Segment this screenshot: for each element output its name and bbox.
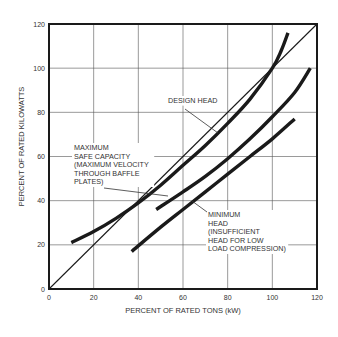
y-tick-label: 100 — [33, 65, 45, 72]
x-tick-label: 80 — [224, 294, 232, 301]
y-tick-label: 20 — [37, 241, 45, 248]
annotation-text: LOAD COMPRESSION) — [208, 244, 286, 253]
annotations: DESIGN HEADMAXIMUMSAFE CAPACITY(MAXIMUM … — [72, 96, 288, 254]
y-tick-label: 80 — [37, 109, 45, 116]
x-tick-label: 100 — [266, 294, 278, 301]
x-tick-label: 0 — [47, 294, 51, 301]
chart: 020406080100120020406080100120 DESIGN HE… — [0, 0, 338, 337]
y-axis-label: PERCENT OF RATED KILOWATTS — [17, 87, 26, 207]
leader-line — [192, 201, 207, 212]
x-tick-label: 120 — [311, 294, 323, 301]
series-maximum-safe-capacity — [156, 68, 310, 209]
y-tick-label: 60 — [37, 153, 45, 160]
x-tick-label: 40 — [134, 294, 142, 301]
x-axis-label: PERCENT OF RATED TONS (kW) — [125, 306, 241, 315]
y-tick-label: 0 — [41, 286, 45, 293]
x-tick-label: 20 — [90, 294, 98, 301]
annotation-minhead: MINIMUMHEAD(INSUFFICIENTHEAD FOR LOWLOAD… — [192, 201, 288, 254]
y-tick-label: 40 — [37, 197, 45, 204]
annotation-text: PLATES) — [74, 177, 103, 186]
x-tick-label: 60 — [179, 294, 187, 301]
y-tick-label: 120 — [33, 21, 45, 28]
annotation-text: DESIGN HEAD — [168, 96, 218, 105]
annotation-maxsafe: MAXIMUMSAFE CAPACITY(MAXIMUM VELOCITYTHR… — [72, 143, 168, 196]
